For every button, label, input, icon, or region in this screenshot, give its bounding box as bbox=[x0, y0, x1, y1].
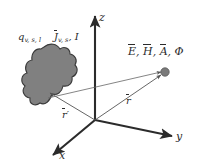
r-prime-symbol: r bbox=[62, 109, 67, 120]
current-subscript: v, s bbox=[58, 36, 68, 44]
y-axis-label: y bbox=[176, 131, 182, 142]
observation-point-dot bbox=[161, 68, 169, 76]
r-overbar-group: r bbox=[126, 96, 131, 106]
x-axis-label: x bbox=[59, 150, 65, 161]
z-axis-label: z bbox=[99, 12, 105, 23]
charge-subscript: v, s, l bbox=[24, 36, 41, 44]
overbar-e bbox=[128, 44, 134, 45]
overbar-r-prime bbox=[62, 108, 65, 109]
figure-canvas: z y x qv, s, l Jv, s, I E, H, A, Φ r′ r bbox=[0, 0, 208, 165]
field-separator-3: , bbox=[168, 45, 172, 58]
source-charge-label: qv, s, l bbox=[18, 32, 41, 42]
source-position-vector-line bbox=[50, 93, 95, 120]
source-current-label: Jv, s, I bbox=[54, 32, 79, 42]
r-prime-mark: ′ bbox=[67, 109, 69, 120]
current-scalar: I bbox=[75, 31, 79, 42]
field-e-symbol: E bbox=[128, 45, 136, 58]
field-phi-symbol: Φ bbox=[175, 45, 184, 58]
overbar-r bbox=[126, 94, 129, 95]
field-separator-2: , bbox=[153, 45, 157, 58]
overbar-current bbox=[54, 30, 57, 31]
field-separator-1: , bbox=[136, 45, 140, 58]
r-prime-overbar-group: r bbox=[62, 110, 67, 120]
field-a-symbol: A bbox=[160, 45, 168, 58]
field-h-symbol: H bbox=[143, 45, 153, 58]
overbar-h bbox=[143, 44, 150, 45]
r-symbol: r bbox=[126, 95, 131, 106]
field-a-group: A bbox=[160, 46, 168, 57]
field-h-group: H bbox=[143, 46, 153, 57]
field-e-group: E bbox=[128, 46, 136, 57]
y-axis-line bbox=[95, 120, 172, 136]
overbar-a bbox=[160, 44, 166, 45]
source-region-blob bbox=[22, 44, 77, 105]
observation-fields-label: E, H, A, Φ bbox=[128, 46, 184, 57]
observation-position-vector-label: r bbox=[126, 96, 131, 106]
source-separator-1: , bbox=[68, 31, 71, 42]
source-position-vector-label: r′ bbox=[62, 110, 69, 120]
